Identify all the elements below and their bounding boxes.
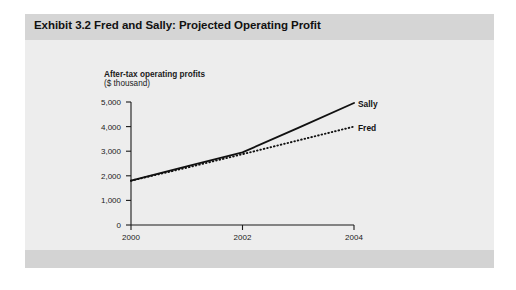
- exhibit-footer-band: [25, 250, 494, 268]
- line-chart-plot: [25, 40, 494, 250]
- y-tick-label: 2,000: [87, 172, 121, 181]
- y-tick-label: 3,000: [87, 147, 121, 156]
- y-axis-ticks: [126, 102, 131, 225]
- x-tick-label: 2000: [114, 233, 148, 242]
- exhibit-title-bar: Exhibit 3.2 Fred and Sally: Projected Op…: [25, 14, 494, 40]
- y-tick-label: 5,000: [87, 98, 121, 107]
- x-tick-label: 2002: [226, 233, 260, 242]
- y-tick-label: 4,000: [87, 123, 121, 132]
- y-tick-label: 1,000: [87, 196, 121, 205]
- y-tick-label: 0: [87, 221, 121, 230]
- series-line-sally: [131, 103, 354, 181]
- exhibit-panel: Exhibit 3.2 Fred and Sally: Projected Op…: [25, 14, 494, 268]
- exhibit-title: Exhibit 3.2 Fred and Sally: Projected Op…: [34, 19, 321, 31]
- series-line-fred: [131, 127, 354, 181]
- x-axis-ticks: [131, 225, 354, 230]
- x-tick-label: 2004: [337, 233, 371, 242]
- series-label-sally: Sally: [358, 99, 378, 109]
- chart-area: After-tax operating profits ($ thousand): [25, 40, 494, 250]
- series-label-fred: Fred: [358, 123, 376, 133]
